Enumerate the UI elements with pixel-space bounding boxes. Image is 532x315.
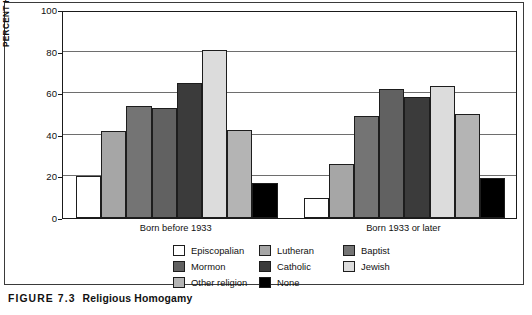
legend-item-episcopalian[interactable]: Episcopalian	[173, 245, 259, 256]
figure-number: FIGURE 7.3	[8, 293, 76, 304]
bar-other-religion-group-2	[455, 114, 480, 218]
y-tick-mark-0	[58, 219, 62, 220]
figure-caption: FIGURE 7.3Religious Homogamy	[8, 293, 192, 304]
legend-label: Mormon	[191, 261, 225, 272]
legend-label: Other religion	[191, 277, 247, 288]
plot-area	[62, 11, 517, 219]
bar-baptist-group-1	[126, 106, 151, 218]
bar-series-container	[63, 12, 516, 218]
legend-swatch-episcopalian-icon	[173, 245, 185, 256]
legend-item-baptist[interactable]: Baptist	[343, 245, 423, 256]
legend-item-other-religion[interactable]: Other religion	[173, 277, 259, 288]
bar-mormon-group-2	[379, 89, 404, 218]
legend-swatch-catholic-icon	[259, 261, 271, 272]
bar-lutheran-group-2	[329, 164, 354, 218]
bar-catholic-group-1	[177, 83, 202, 218]
bar-catholic-group-2	[404, 97, 429, 218]
bar-jewish-group-1	[202, 50, 227, 218]
legend-swatch-lutheran-icon	[259, 245, 271, 256]
bar-episcopalian-group-1	[76, 176, 101, 218]
bar-episcopalian-group-2	[304, 198, 329, 218]
legend-swatch-other-religion-icon	[173, 277, 185, 288]
legend-swatch-jewish-icon	[343, 261, 355, 272]
legend-item-none[interactable]: None	[259, 277, 343, 288]
legend-swatch-none-icon	[259, 277, 271, 288]
figure-frame: 020406080100 PERCENT HOMOGAMOUS Born bef…	[4, 2, 524, 285]
legend-item-lutheran[interactable]: Lutheran	[259, 245, 343, 256]
figure-title: Religious Homogamy	[83, 293, 193, 304]
legend-label: Jewish	[361, 261, 390, 272]
legend-label: None	[277, 277, 299, 288]
legend-swatch-mormon-icon	[173, 261, 185, 272]
bar-other-religion-group-1	[227, 130, 252, 218]
legend-label: Lutheran	[277, 245, 314, 256]
bar-baptist-group-2	[354, 116, 379, 218]
y-tick-label-0: 0	[23, 214, 57, 224]
legend-label: Episcopalian	[191, 245, 244, 256]
y-axis-tick-labels: 020406080100	[19, 3, 57, 211]
y-tick-label-40: 40	[23, 131, 57, 141]
bar-none-group-1	[252, 183, 277, 218]
y-axis-title: PERCENT HOMOGAMOUS	[2, 0, 11, 47]
legend-label: Catholic	[277, 261, 311, 272]
y-tick-label-20: 20	[23, 172, 57, 182]
chart-legend: EpiscopalianLutheranBaptistMormonCatholi…	[173, 242, 423, 290]
y-tick-label-100: 100	[23, 6, 57, 16]
bar-jewish-group-2	[430, 86, 455, 218]
legend-item-mormon[interactable]: Mormon	[173, 261, 259, 272]
legend-item-catholic[interactable]: Catholic	[259, 261, 343, 272]
y-tick-label-80: 80	[23, 48, 57, 58]
bar-lutheran-group-1	[101, 131, 126, 218]
bar-none-group-2	[480, 178, 505, 218]
group-label-1: Born before 1933	[75, 223, 277, 233]
bar-mormon-group-1	[152, 108, 177, 218]
legend-item-jewish[interactable]: Jewish	[343, 261, 423, 272]
group-label-2: Born 1933 or later	[303, 223, 505, 233]
legend-label: Baptist	[361, 245, 390, 256]
y-tick-label-60: 60	[23, 89, 57, 99]
legend-swatch-baptist-icon	[343, 245, 355, 256]
